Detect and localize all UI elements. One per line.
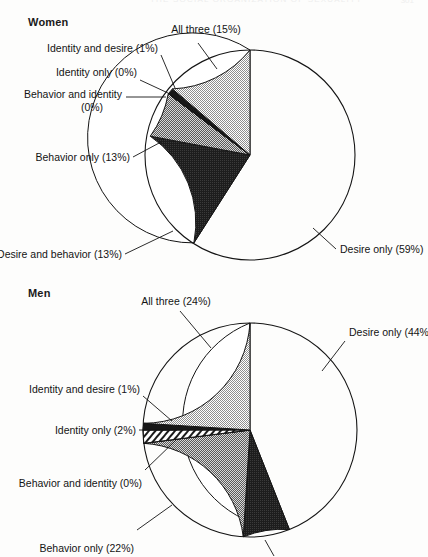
label-men-identity-only: Identity only (2%) <box>55 424 136 436</box>
leader-men-behavior-only <box>137 505 172 530</box>
label-men-behavior-and-identity: Behavior and identity (0%) <box>19 477 142 489</box>
pie-chart-men: All three (24%) Desire only (44%) Identi… <box>0 0 428 557</box>
leader-men-all-three <box>180 311 211 348</box>
label-men-identity-and-desire: Identity and desire (1%) <box>29 383 140 395</box>
leader-men-desire-only <box>322 341 345 371</box>
leader-men-identity-and-desire <box>143 396 172 421</box>
slice-men-desire-and-behavior <box>243 430 289 537</box>
slice-men-behavior-only <box>144 430 250 537</box>
scanned-page: THE SOCIAL ORGANIZATION OF SEXUALITY 301… <box>0 0 428 557</box>
label-men-all-three: All three (24%) <box>141 295 210 307</box>
label-men-desire-only: Desire only (44%) <box>349 326 428 338</box>
label-men-behavior-only: Behavior only (22%) <box>39 542 134 554</box>
leader-men-desire-and-behavior <box>265 540 274 556</box>
